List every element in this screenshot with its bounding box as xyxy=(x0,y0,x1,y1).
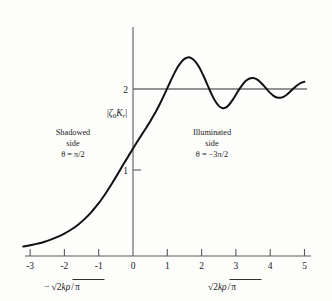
y-tick-label-1: 1 xyxy=(123,166,128,176)
xright-pi: π xyxy=(231,282,236,292)
x-tick-label-3: 0 xyxy=(131,261,136,271)
x-tick-label-5: 2 xyxy=(199,261,204,271)
xleft-rho: ρ xyxy=(65,282,71,292)
illuminated-line-2: side xyxy=(205,139,219,148)
illuminated-line-3: θ = −3π/2 xyxy=(196,150,228,159)
ytitle-bar-right: | xyxy=(125,108,127,118)
xright-slash: / xyxy=(228,282,231,292)
shadowed-line-3: θ = π/2 xyxy=(61,150,84,159)
y-tick-label-2: 2 xyxy=(123,85,128,95)
x-tick-label-7: 4 xyxy=(268,261,273,271)
x-tick-label-6: 3 xyxy=(234,261,239,271)
illuminated-line-1: Illuminated xyxy=(193,128,232,137)
x-tick-label-8: 5 xyxy=(302,261,307,271)
x-tick-label-2: -1 xyxy=(95,261,103,271)
svg-text:√2kρ/π: √2kρ/π xyxy=(208,282,236,292)
diffraction-chart: -3 -2 -1 0 1 2 3 4 5 2 1 |ζ0Kr| Shadowed… xyxy=(0,0,332,301)
xleft-slash: / xyxy=(71,282,74,292)
x-tick-label-1: -2 xyxy=(60,261,68,271)
xleft-pi: π xyxy=(75,282,80,292)
shadowed-line-2: side xyxy=(66,139,80,148)
shadowed-line-1: Shadowed xyxy=(56,128,91,137)
xright-rho: ρ xyxy=(221,282,227,292)
xleft-minus: − xyxy=(44,282,49,292)
x-tick-label-0: -3 xyxy=(26,261,34,271)
x-tick-label-4: 1 xyxy=(165,261,170,271)
svg-text:−√2kρ/π: −√2kρ/π xyxy=(44,282,80,292)
figure-container: -3 -2 -1 0 1 2 3 4 5 2 1 |ζ0Kr| Shadowed… xyxy=(0,0,332,301)
